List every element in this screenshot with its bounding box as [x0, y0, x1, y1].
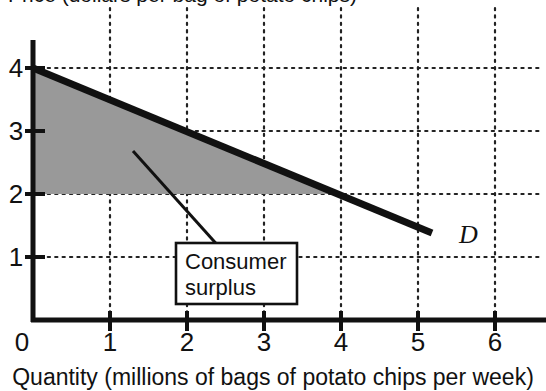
- callout-line-1: Consumer: [185, 249, 286, 274]
- demand-curve-label: D: [458, 220, 478, 249]
- xtick-label-2: 2: [180, 327, 194, 357]
- ytick-label-4: 4: [9, 53, 23, 83]
- ytick-label-1: 1: [9, 242, 23, 272]
- xtick-label-4: 4: [334, 327, 348, 357]
- xtick-label-3: 3: [257, 327, 271, 357]
- xtick-label-0: 0: [15, 327, 29, 357]
- consumer-surplus-chart: Price (dollars per bag of potato chips) …: [0, 0, 546, 391]
- xtick-label-5: 5: [411, 327, 425, 357]
- clipped-price-axis-title: Price (dollars per bag of potato chips): [8, 0, 357, 6]
- ytick-label-2: 2: [9, 179, 23, 209]
- xtick-label-6: 6: [488, 327, 502, 357]
- xtick-label-1: 1: [103, 327, 117, 357]
- chart-canvas: Price (dollars per bag of potato chips) …: [0, 0, 546, 391]
- quantity-axis-title: Quantity (millions of bags of potato chi…: [12, 364, 534, 390]
- ytick-label-3: 3: [9, 116, 23, 146]
- callout-line-2: surplus: [185, 275, 256, 300]
